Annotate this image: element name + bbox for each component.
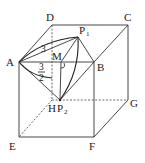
label-M: M: [52, 50, 62, 62]
vertex-labels: D C A B H G E F: [6, 11, 138, 152]
label-D: D: [46, 11, 54, 23]
segment-BP2: [60, 62, 94, 100]
right-angle-mark: [61, 63, 65, 68]
label-H: H: [48, 102, 56, 114]
label-P2: P: [57, 102, 63, 114]
segment-P1B: [78, 37, 94, 62]
hidden-edges: [19, 25, 128, 137]
segment-MP2: [60, 62, 61, 100]
label-P1: P: [79, 24, 85, 36]
construction-lines: [19, 37, 94, 100]
label-C: C: [124, 11, 131, 23]
label-A: A: [6, 56, 14, 68]
fraction-denominator: 2: [39, 73, 44, 83]
visible-edges: [19, 25, 128, 137]
edge-CB: [94, 25, 128, 62]
label-P1-sub: 1: [86, 30, 90, 38]
point-P2-dot: [59, 99, 61, 101]
cube-diagram: D C A B H G E F M P 1 P 2 3 3 2: [0, 0, 145, 163]
fraction-numerator: 3: [39, 62, 44, 72]
label-P2-sub: 2: [64, 108, 68, 116]
arc-P1P2: [60, 37, 78, 100]
label-G: G: [130, 97, 138, 109]
edge-FG: [94, 100, 128, 137]
arc-AP2: [19, 62, 52, 78]
length-AP1: 3: [41, 44, 46, 54]
label-B: B: [97, 61, 104, 73]
label-E: E: [9, 140, 16, 152]
label-F: F: [89, 140, 95, 152]
